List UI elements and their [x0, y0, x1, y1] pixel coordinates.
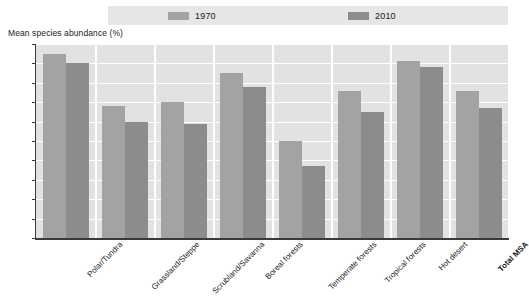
bar-group [154, 44, 213, 238]
bar-2010[interactable] [243, 87, 266, 238]
legend: 1970 2010 [108, 6, 508, 25]
bar-group [36, 44, 95, 238]
y-tick-mark [32, 238, 36, 239]
legend-label-2010: 2010 [375, 11, 396, 21]
x-axis-label: Scrubland/Savanna [210, 240, 266, 296]
x-axis-category-labels: Polar/TundraGrassland/SteppeScrubland/Sa… [36, 240, 508, 304]
y-tick-mark [32, 180, 36, 181]
bar-2010[interactable] [302, 166, 325, 238]
bar-1970[interactable] [220, 73, 243, 238]
bar-group [449, 44, 508, 238]
bar-group [95, 44, 154, 238]
bar-1970[interactable] [338, 91, 361, 238]
legend-label-1970: 1970 [195, 11, 216, 21]
y-tick-mark [32, 63, 36, 64]
y-tick-mark [32, 160, 36, 161]
x-axis-label: Temperate forests [326, 240, 378, 292]
legend-swatch-2010 [348, 12, 369, 20]
chart-plot-area: 1009080706050403020100 [36, 44, 508, 238]
bar-2010[interactable] [479, 108, 502, 238]
y-tick-mark [32, 219, 36, 220]
legend-item-2010: 2010 [348, 6, 396, 25]
x-axis-label: Grassland/Steppe [149, 240, 201, 292]
bar-1970[interactable] [43, 54, 66, 238]
x-axis-label: Total MSA [496, 240, 529, 274]
bar-2010[interactable] [66, 63, 89, 238]
bar-1970[interactable] [456, 91, 479, 238]
bar-1970[interactable] [102, 106, 125, 238]
bars-layer [36, 44, 508, 238]
x-axis-label: Polar/Tundra [85, 240, 124, 279]
y-tick-mark [32, 44, 36, 45]
y-tick-mark [32, 83, 36, 84]
legend-swatch-1970 [168, 12, 189, 20]
bar-group [390, 44, 449, 238]
y-tick-mark [32, 122, 36, 123]
bar-2010[interactable] [361, 112, 384, 238]
bar-group [213, 44, 272, 238]
x-axis-label: Boreal forests [263, 240, 304, 281]
bar-group [272, 44, 331, 238]
x-axis-label: Hot desert [436, 240, 468, 272]
y-tick-mark [32, 102, 36, 103]
bar-2010[interactable] [125, 122, 148, 238]
bar-1970[interactable] [161, 102, 184, 238]
x-axis-label: Tropical forests [382, 240, 427, 285]
bar-2010[interactable] [184, 124, 207, 238]
legend-item-1970: 1970 [168, 6, 216, 25]
y-axis-title: Mean species abundance (%) [8, 28, 123, 38]
bar-1970[interactable] [279, 141, 302, 238]
y-tick-mark [32, 199, 36, 200]
bar-1970[interactable] [397, 61, 420, 238]
y-tick-mark [32, 141, 36, 142]
bar-group [331, 44, 390, 238]
bar-2010[interactable] [420, 67, 443, 238]
